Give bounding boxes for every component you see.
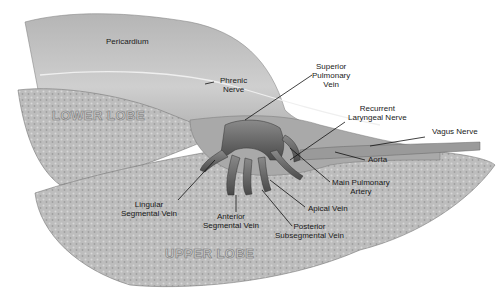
vagus-nerve-label: Vagus Nerve: [432, 127, 478, 136]
superior-pulmonary-vein-label-line-2: Pulmonary: [312, 71, 350, 80]
superior-pulmonary-vein-label: Superior Pulmonary Vein: [312, 62, 350, 89]
phrenic-nerve-label-line-2: Nerve: [220, 85, 247, 94]
anterior-segmental-vein-label-line-1: Anterior: [203, 212, 259, 221]
anatomy-figure: LOWER LOBE UPPER LOBE Pericardium Phreni…: [0, 0, 502, 303]
apical-vein-label: Apical Vein: [308, 204, 348, 213]
lingular-segmental-vein-label-line-1: Lingular: [121, 200, 177, 209]
superior-pulmonary-vein-label-line-3: Vein: [312, 80, 350, 89]
anterior-segmental-vein-label-line-2: Segmental Vein: [203, 221, 259, 230]
aorta-label: Aorta: [368, 155, 387, 164]
lingular-segmental-vein-label-line-2: Segmental Vein: [121, 209, 177, 218]
phrenic-nerve-label-line-1: Phrenic: [220, 76, 247, 85]
recurrent-laryngeal-nerve-label-line-1: Recurrent: [348, 104, 407, 113]
main-pulmonary-artery-label-line-1: Main Pulmonary: [332, 178, 390, 187]
anterior-segmental-vein-label: Anterior Segmental Vein: [203, 212, 259, 230]
superior-pulmonary-vein-label-line-1: Superior: [312, 62, 350, 71]
lingular-segmental-vein-label: Lingular Segmental Vein: [121, 200, 177, 218]
recurrent-laryngeal-nerve-label-line-2: Laryngeal Nerve: [348, 113, 407, 122]
lower-lobe-label: LOWER LOBE: [52, 108, 145, 123]
main-pulmonary-artery-label: Main Pulmonary Artery: [332, 178, 390, 196]
upper-lobe-label: UPPER LOBE: [165, 246, 255, 261]
posterior-subsegmental-vein-label: Posterior Subsegmental Vein: [275, 222, 344, 240]
phrenic-nerve-label: Phrenic Nerve: [220, 76, 247, 94]
main-pulmonary-artery-label-line-2: Artery: [332, 187, 390, 196]
recurrent-laryngeal-nerve-label: Recurrent Laryngeal Nerve: [348, 104, 407, 122]
posterior-subsegmental-vein-label-line-2: Subsegmental Vein: [275, 231, 344, 240]
pericardium-label: Pericardium: [106, 37, 149, 46]
posterior-subsegmental-vein-label-line-1: Posterior: [275, 222, 344, 231]
